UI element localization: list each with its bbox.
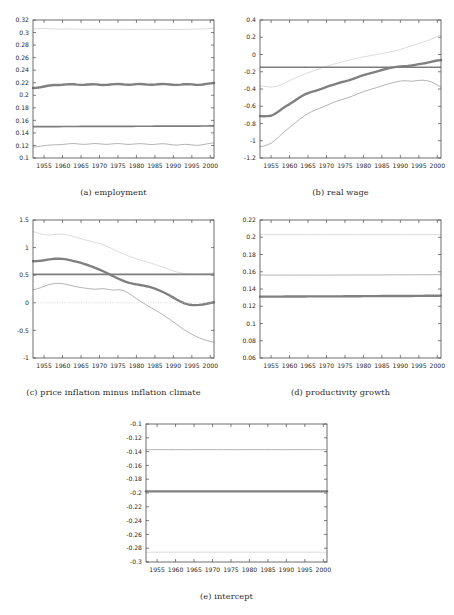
x-axis-tick-label: 1955 bbox=[263, 362, 279, 369]
series-point-estimate bbox=[33, 83, 214, 88]
chart-productivity-growth: 0.060.080.10.120.140.160.180.20.22195519… bbox=[227, 208, 454, 386]
x-axis-tick-label: 1975 bbox=[110, 162, 126, 169]
y-axis-tick-label: 0.08 bbox=[242, 337, 256, 344]
x-axis-tick-label: 1990 bbox=[166, 362, 182, 369]
y-axis-tick-label: -0.16 bbox=[126, 462, 142, 469]
y-axis-tick-label: 0 bbox=[252, 51, 256, 58]
plot-frame bbox=[33, 220, 214, 358]
y-axis-tick-label: 0.26 bbox=[15, 54, 29, 61]
panel-productivity-growth: 0.060.080.10.120.140.160.180.20.22195519… bbox=[227, 208, 454, 397]
x-axis-tick-label: 1985 bbox=[147, 362, 163, 369]
plot-frame bbox=[33, 20, 214, 158]
y-axis-tick-label: -0.28 bbox=[126, 544, 142, 551]
panel-price-inflation: -1-0.500.511.519551960196519701975198019… bbox=[0, 208, 227, 397]
x-axis-tick-label: 1970 bbox=[205, 566, 221, 573]
x-axis-tick-label: 1975 bbox=[337, 162, 353, 169]
y-axis-tick-label: -0.18 bbox=[126, 475, 142, 482]
x-axis-tick-label: 1995 bbox=[184, 162, 200, 169]
panel-caption-price-inflation: (c) price inflation minus inflation clim… bbox=[0, 387, 227, 397]
series-point-estimate bbox=[260, 296, 441, 297]
x-axis-tick-label: 1995 bbox=[184, 362, 200, 369]
panel-employment: 0.10.120.140.160.180.20.220.240.260.280.… bbox=[0, 8, 227, 197]
y-axis-tick-label: -0.22 bbox=[126, 503, 142, 510]
x-axis-tick-label: 1980 bbox=[356, 362, 372, 369]
y-axis-tick-label: -0.1 bbox=[130, 420, 142, 427]
y-axis-tick-label: 0.12 bbox=[15, 142, 29, 149]
x-axis-tick-label: 1985 bbox=[374, 162, 390, 169]
y-axis-tick-label: -1 bbox=[250, 137, 256, 144]
series-confidence-band-light bbox=[33, 28, 214, 29]
y-axis-tick-label: -0.3 bbox=[130, 558, 142, 565]
x-axis-tick-label: 1965 bbox=[186, 566, 202, 573]
x-axis-tick-label: 1960 bbox=[55, 362, 71, 369]
y-axis-tick-label: -0.2 bbox=[130, 489, 142, 496]
x-axis-tick-label: 2000 bbox=[430, 362, 446, 369]
x-axis-tick-label: 1975 bbox=[110, 362, 126, 369]
y-axis-tick-label: 0.14 bbox=[15, 129, 29, 136]
x-axis-tick-label: 1955 bbox=[263, 162, 279, 169]
y-axis-tick-label: -0.12 bbox=[126, 434, 142, 441]
x-axis-tick-label: 2000 bbox=[203, 162, 219, 169]
x-axis-tick-label: 1965 bbox=[73, 362, 89, 369]
series-confidence-band bbox=[260, 80, 441, 146]
x-axis-tick-label: 1970 bbox=[92, 162, 108, 169]
panel-caption-intercept: (e) intercept bbox=[113, 591, 340, 601]
x-axis-tick-label: 2000 bbox=[430, 162, 446, 169]
x-axis-tick-label: 1980 bbox=[356, 162, 372, 169]
figure-panel-grid: 0.10.120.140.160.180.20.220.240.260.280.… bbox=[0, 0, 454, 615]
y-axis-tick-label: -0.14 bbox=[126, 448, 142, 455]
x-axis-tick-label: 1985 bbox=[374, 362, 390, 369]
y-axis-tick-label: 0.14 bbox=[242, 285, 256, 292]
series-confidence-band-light bbox=[33, 232, 214, 275]
x-axis-tick-label: 1985 bbox=[260, 566, 276, 573]
y-axis-tick-label: -1 bbox=[23, 354, 29, 361]
x-axis-tick-label: 1965 bbox=[300, 362, 316, 369]
x-axis-tick-label: 1960 bbox=[282, 362, 298, 369]
x-axis-tick-label: 1980 bbox=[129, 362, 145, 369]
y-axis-tick-label: 1 bbox=[25, 244, 29, 251]
x-axis-tick-label: 1990 bbox=[393, 362, 409, 369]
x-axis-tick-label: 1955 bbox=[36, 362, 52, 369]
chart-intercept: -0.3-0.28-0.26-0.24-0.22-0.2-0.18-0.16-0… bbox=[113, 412, 340, 590]
y-axis-tick-label: -0.24 bbox=[126, 517, 142, 524]
y-axis-tick-label: -1.2 bbox=[244, 154, 256, 161]
y-axis-tick-label: 0.28 bbox=[15, 41, 29, 48]
x-axis-tick-label: 1960 bbox=[168, 566, 184, 573]
y-axis-tick-label: 0.16 bbox=[15, 117, 29, 124]
series-reference-line bbox=[33, 126, 214, 127]
y-axis-tick-label: 0.16 bbox=[242, 268, 256, 275]
y-axis-tick-label: 0.3 bbox=[19, 29, 29, 36]
y-axis-tick-label: 0.22 bbox=[242, 216, 256, 223]
panel-caption-real-wage: (b) real wage bbox=[227, 187, 454, 197]
y-axis-tick-label: 0.2 bbox=[246, 233, 256, 240]
x-axis-tick-label: 1990 bbox=[166, 162, 182, 169]
y-axis-tick-label: -0.6 bbox=[244, 102, 256, 109]
y-axis-tick-label: 0.1 bbox=[19, 154, 29, 161]
x-axis-tick-label: 1980 bbox=[242, 566, 258, 573]
x-axis-tick-label: 1960 bbox=[55, 162, 71, 169]
plot-frame bbox=[260, 220, 441, 358]
y-axis-tick-label: -0.2 bbox=[244, 68, 256, 75]
y-axis-tick-label: 0.22 bbox=[15, 79, 29, 86]
x-axis-tick-label: 1970 bbox=[319, 162, 335, 169]
series-point-estimate bbox=[33, 259, 214, 305]
y-axis-tick-label: 0.4 bbox=[246, 16, 256, 23]
series-point-estimate bbox=[260, 60, 441, 116]
plot-frame bbox=[146, 424, 327, 562]
y-axis-tick-label: 0.18 bbox=[15, 104, 29, 111]
x-axis-tick-label: 1980 bbox=[129, 162, 145, 169]
x-axis-tick-label: 1995 bbox=[297, 566, 313, 573]
x-axis-tick-label: 1955 bbox=[149, 566, 165, 573]
y-axis-tick-label: 1.5 bbox=[19, 216, 29, 223]
x-axis-tick-label: 1990 bbox=[279, 566, 295, 573]
x-axis-tick-label: 1990 bbox=[393, 162, 409, 169]
x-axis-tick-label: 1985 bbox=[147, 162, 163, 169]
x-axis-tick-label: 1970 bbox=[92, 362, 108, 369]
y-axis-tick-label: 0 bbox=[25, 299, 29, 306]
y-axis-tick-label: 0.06 bbox=[242, 354, 256, 361]
x-axis-tick-label: 1975 bbox=[223, 566, 239, 573]
x-axis-tick-label: 2000 bbox=[316, 566, 332, 573]
plot-frame bbox=[260, 20, 441, 158]
y-axis-tick-label: 0.2 bbox=[246, 33, 256, 40]
chart-employment: 0.10.120.140.160.180.20.220.240.260.280.… bbox=[0, 8, 227, 186]
